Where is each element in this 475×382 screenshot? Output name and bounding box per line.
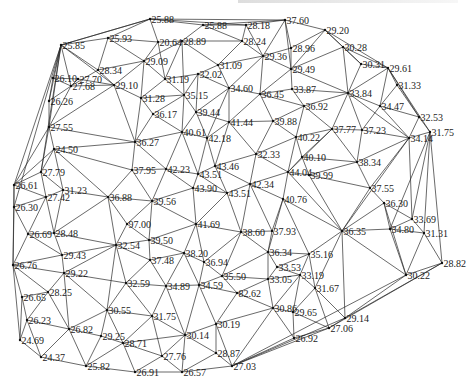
triangle-edge [64, 273, 69, 329]
node-elevation-label: 29.25 [103, 331, 126, 342]
node-elevation-label: 33.84 [350, 88, 373, 99]
node-elevation-label: 31.09 [220, 60, 243, 71]
node-elevation-label: 43.90 [195, 183, 218, 194]
node-elevation-label: 36.27 [137, 137, 160, 148]
node-elevation-label: 36.35 [344, 226, 367, 237]
node-elevation-label: 26.65 [24, 292, 47, 303]
node-elevation-label: 29.49 [293, 64, 316, 75]
node-elevation-label: 31.75 [432, 127, 455, 138]
node-elevation-label: 36.92 [306, 101, 329, 112]
node-elevation-label: 33.53 [279, 262, 302, 273]
node-elevation-label: 26.26 [51, 96, 74, 107]
node-elevation-label: 35.16 [311, 249, 334, 260]
node-elevation-label: 28.96 [293, 43, 316, 54]
node-elevation-label: 42.23 [168, 164, 191, 175]
node-elevation-label: 31.28 [143, 93, 166, 104]
node-elevation-label: 33.69 [414, 214, 437, 225]
node-elevation-label: 35.15 [186, 90, 209, 101]
node-elevation-label: 26.57 [184, 367, 207, 378]
node-elevation-label: 37.23 [364, 125, 387, 136]
triangle-edge [13, 207, 14, 265]
node-elevation-label: 30.14 [187, 330, 210, 341]
node-elevation-label: 29.61 [390, 63, 413, 74]
triangle-edge [430, 132, 442, 263]
node-elevation-label: 38.60 [243, 227, 266, 238]
node-elevation-label: 43.51 [200, 169, 223, 180]
node-elevation-label: 28.48 [56, 228, 79, 239]
node-elevation-label: 29.10 [116, 80, 139, 91]
node-elevation-label: 28.25 [50, 287, 73, 298]
node-elevation-label: 40.76 [285, 194, 308, 205]
node-elevation-label: 36.34 [270, 247, 293, 258]
node-elevation-label: 40.61 [184, 127, 207, 138]
node-elevation-label: 32.53 [421, 112, 444, 123]
node-elevation-label: 34.47 [382, 101, 405, 112]
node-elevation-label: 28.18 [248, 20, 271, 31]
node-elevation-label: 34.59 [201, 280, 224, 291]
node-elevation-label: 37.77 [334, 124, 357, 135]
node-elevation-label: 42.18 [209, 133, 232, 144]
node-elevation-label: 34.80 [392, 224, 415, 235]
triangle-edge [199, 285, 216, 324]
node-elevation-label: 31.75 [154, 311, 177, 322]
node-elevation-label: 24.37 [43, 352, 66, 363]
node-elevation-label: 27.42 [48, 192, 71, 203]
node-elevation-label: 34.14 [411, 133, 434, 144]
triangle-edge [342, 231, 345, 318]
node-elevation-label: 26.23 [29, 315, 52, 326]
triangle-edge [409, 138, 412, 219]
node-elevation-label: 26.30 [16, 202, 39, 213]
node-elevation-label: 38.34 [359, 157, 382, 168]
node-elevation-label: 26.92 [296, 333, 319, 344]
node-elevation-label: 33.05 [270, 274, 293, 285]
node-elevation-label: 32.54 [118, 240, 141, 251]
node-elevation-label: 29.22 [66, 268, 89, 279]
node-elevation-label: 82.62 [239, 288, 262, 299]
elevation-labels: 25.8825.8828.1837.6029.2030.2830.3129.61… [15, 14, 467, 378]
node-elevation-label: 30.19 [218, 319, 241, 330]
node-elevation-label: 28.71 [125, 338, 148, 349]
node-elevation-label: 30.31 [363, 59, 386, 70]
node-elevation-label: 39.50 [151, 235, 174, 246]
node-elevation-label: 26.69 [30, 229, 53, 240]
triangle-edge [69, 329, 86, 366]
node-elevation-label: 24.50 [56, 144, 79, 155]
node-elevation-label: 35.50 [224, 271, 247, 282]
node-elevation-label: 24.69 [22, 335, 45, 346]
node-elevation-label: 31.31 [426, 228, 449, 239]
node-elevation-label: 30.28 [345, 42, 368, 53]
triangle-edge [116, 245, 126, 283]
node-elevation-label: 37.60 [287, 15, 310, 26]
node-elevation-label: 39.88 [275, 116, 298, 127]
node-elevation-label: 34.60 [231, 83, 254, 94]
node-elevation-label: 36.45 [262, 89, 285, 100]
node-elevation-label: 34.89 [168, 281, 191, 292]
node-elevation-label: 41.69 [198, 219, 221, 230]
node-elevation-label: 37.93 [274, 226, 297, 237]
node-elevation-label: 27.06 [331, 323, 354, 334]
node-elevation-label: 27.68 [73, 81, 96, 92]
node-elevation-label: 28.34 [100, 65, 123, 76]
node-elevation-label: 26.82 [71, 324, 94, 335]
node-elevation-label: 37.48 [152, 255, 175, 266]
tin-diagram: 25.8825.8828.1837.6029.2030.2830.3129.61… [0, 0, 475, 382]
node-elevation-label: 26.91 [137, 367, 160, 378]
triangle-edge [309, 175, 342, 231]
node-elevation-label: 37.95 [134, 165, 157, 176]
triangle-edge [227, 193, 241, 232]
triangle-edge [215, 122, 229, 166]
node-elevation-label: 39.56 [154, 196, 177, 207]
node-elevation-label: 28.89 [184, 36, 207, 47]
node-elevation-label: 29.09 [146, 56, 169, 67]
triangle-edge [152, 316, 162, 356]
triangle-edge [108, 197, 116, 245]
node-elevation-label: 36.88 [110, 192, 133, 203]
triangle-edge [342, 231, 406, 275]
node-elevation-label: 33.19 [302, 270, 325, 281]
node-elevation-label: 25.88 [152, 14, 175, 25]
node-elevation-label: 44.04 [290, 167, 313, 178]
node-elevation-label: 40.22 [298, 132, 321, 143]
node-elevation-label: 30.22 [408, 270, 431, 281]
triangle-edge [107, 245, 116, 310]
node-elevation-label: 31.67 [317, 283, 340, 294]
